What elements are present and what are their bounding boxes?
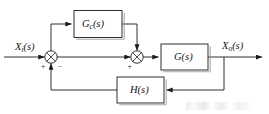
plant-label: G(s): [174, 52, 193, 63]
compensator-label-base: G: [82, 18, 90, 29]
block-diagram-canvas: Gc(s) G(s) H(s) Xi(s) Xo(s) + − +: [0, 0, 269, 114]
feedback-label-arg: (s): [138, 84, 149, 95]
compensator-label: Gc(s): [82, 19, 104, 30]
output-signal-arg: (s): [232, 40, 243, 51]
plant-label-arg: (s): [182, 51, 193, 62]
feedback-label: H(s): [130, 85, 149, 96]
summer-1-plus-sign: +: [41, 63, 45, 71]
output-signal-label: Xo(s): [222, 41, 243, 52]
plant-label-base: G: [174, 51, 182, 62]
input-signal-label: Xi(s): [15, 42, 35, 53]
block-diagram-svg: [0, 0, 269, 114]
feedback-label-base: H: [130, 84, 138, 95]
input-signal-arg: (s): [23, 41, 34, 52]
compensator-label-arg: (s): [93, 18, 104, 29]
summer-1-minus-sign: −: [58, 63, 62, 71]
summer-2-plus-sign: +: [128, 63, 132, 71]
